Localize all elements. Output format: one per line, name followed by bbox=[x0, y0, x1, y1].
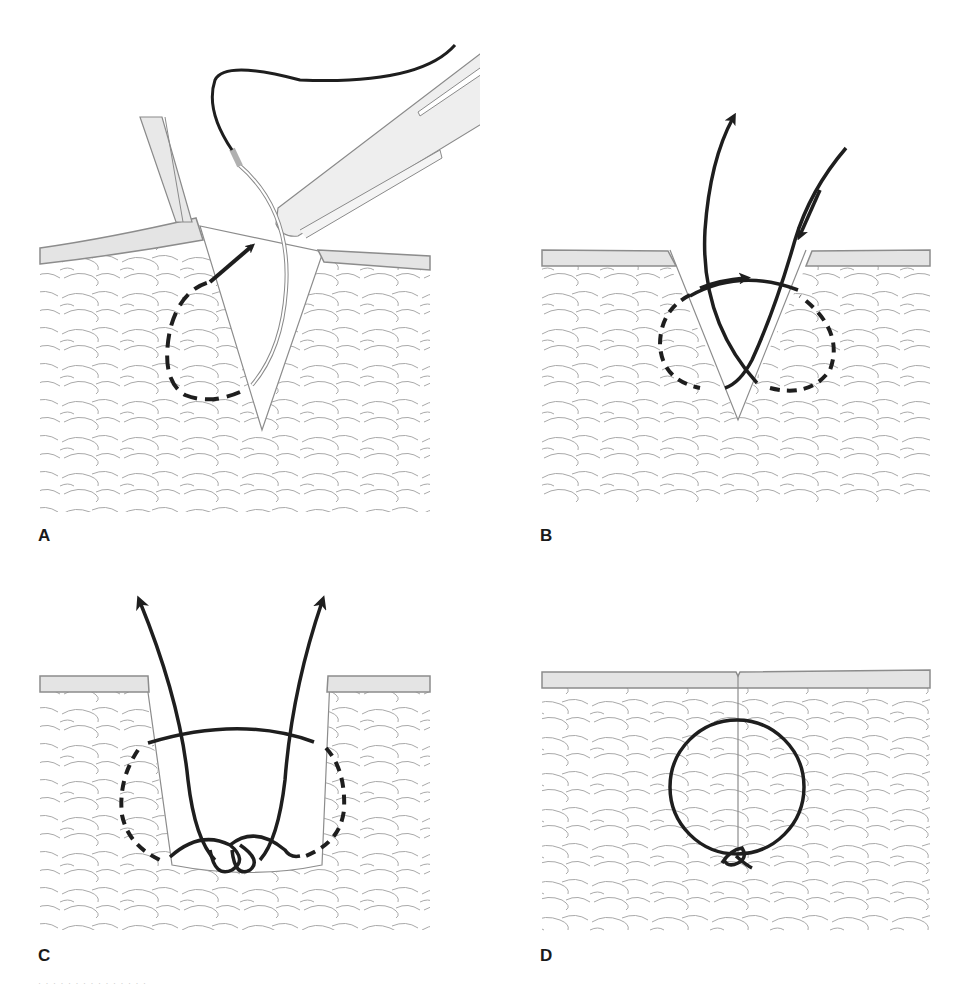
tissue-d bbox=[542, 688, 930, 933]
epidermis-left-c bbox=[40, 676, 149, 692]
epidermis-right-b bbox=[806, 250, 930, 266]
panel-d-illustration bbox=[530, 660, 940, 940]
panel-b-illustration bbox=[0, 0, 967, 525]
panel-label-d: D bbox=[540, 946, 552, 966]
panel-label-a: A bbox=[38, 526, 50, 546]
panel-label-c: C bbox=[38, 946, 50, 966]
panel-label-b: B bbox=[540, 526, 552, 546]
epidermis-left-b bbox=[542, 250, 676, 266]
epidermis-right-c bbox=[327, 676, 430, 692]
panel-c: C bbox=[0, 560, 480, 945]
panel-c-illustration bbox=[0, 560, 480, 945]
figure-caption-fragment: · · · · · · · · · · · · · · · bbox=[38, 978, 147, 988]
panel-d: D bbox=[530, 660, 940, 940]
epidermis-d bbox=[542, 670, 930, 688]
